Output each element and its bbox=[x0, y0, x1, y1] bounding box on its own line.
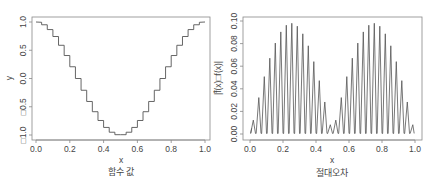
right-y-tick-label: 0.00 bbox=[229, 125, 239, 142]
right-x-tick-label: 0.8 bbox=[376, 144, 388, 154]
left-x-tick-label: 0.2 bbox=[64, 144, 76, 154]
left-x-tick-label: 0.0 bbox=[30, 144, 42, 154]
left-panel: 0.00.20.40.60.81.0 □1.0□0.50.00.51.0 x y… bbox=[4, 16, 211, 177]
chart-canvas: 0.00.20.40.60.81.0 □1.0□0.50.00.51.0 x y… bbox=[0, 0, 435, 185]
right-x-axis: 0.00.20.40.60.81.0 bbox=[244, 140, 421, 154]
left-y-tick-label: 0.0 bbox=[18, 72, 28, 84]
left-step-curve bbox=[36, 22, 205, 135]
right-error-curve bbox=[251, 23, 415, 133]
left-plot-frame bbox=[32, 17, 210, 140]
right-y-tick-label: 0.08 bbox=[229, 35, 239, 52]
left-y-label: y bbox=[4, 75, 14, 80]
right-title: 절대오차 bbox=[316, 167, 349, 178]
right-plot-frame bbox=[243, 17, 422, 140]
right-x-tick-label: 0.4 bbox=[310, 144, 322, 154]
left-x-tick-label: 0.6 bbox=[131, 144, 143, 154]
right-y-tick-label: 0.06 bbox=[229, 58, 239, 75]
right-y-axis: 0.000.020.040.060.080.10 bbox=[229, 12, 243, 142]
left-y-tick-label: □0.5 bbox=[18, 98, 28, 115]
left-x-tick-label: 1.0 bbox=[199, 144, 211, 154]
right-x-tick-label: 0.2 bbox=[277, 144, 289, 154]
right-x-label: x bbox=[330, 155, 335, 165]
left-y-axis: □1.0□0.50.00.51.0 bbox=[18, 16, 32, 144]
right-y-label: |f̂(x)□f(x)| bbox=[213, 61, 223, 95]
left-x-tick-label: 0.8 bbox=[165, 144, 177, 154]
right-x-tick-label: 0.0 bbox=[244, 144, 256, 154]
left-y-tick-label: □1.0 bbox=[18, 126, 28, 143]
right-x-tick-label: 0.6 bbox=[343, 144, 355, 154]
right-x-tick-label: 1.0 bbox=[409, 144, 421, 154]
right-y-tick-label: 0.04 bbox=[229, 80, 239, 97]
left-title: 함수 값 bbox=[108, 166, 135, 177]
left-y-tick-label: 1.0 bbox=[18, 16, 28, 28]
left-x-axis: 0.00.20.40.60.81.0 bbox=[30, 140, 211, 154]
right-y-tick-label: 0.10 bbox=[229, 12, 239, 29]
left-x-label: x bbox=[119, 155, 124, 165]
left-x-tick-label: 0.4 bbox=[98, 144, 110, 154]
right-panel: 0.00.20.40.60.81.0 0.000.020.040.060.080… bbox=[213, 12, 422, 178]
left-y-tick-label: 0.5 bbox=[18, 44, 28, 56]
figure: 0.00.20.40.60.81.0 □1.0□0.50.00.51.0 x y… bbox=[0, 0, 435, 185]
right-y-tick-label: 0.02 bbox=[229, 103, 239, 120]
